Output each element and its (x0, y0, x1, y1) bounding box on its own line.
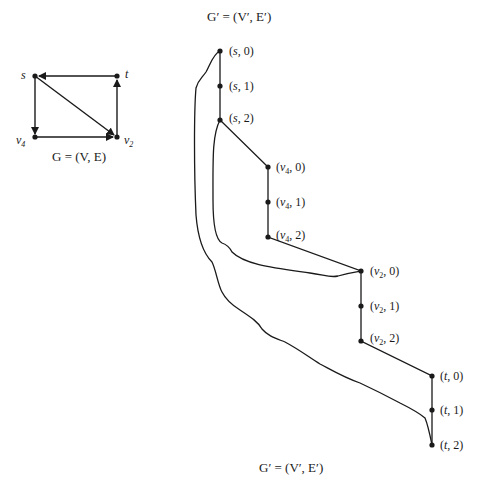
node-s-0 (217, 48, 222, 53)
label-v4-0: (v4, 0) (276, 161, 305, 176)
label-s: s (21, 69, 26, 81)
label-v4: v4 (16, 134, 25, 149)
label-t-2: (t, 2) (440, 439, 463, 451)
label-t-1: (t, 1) (440, 404, 463, 416)
node-v2-2 (358, 338, 363, 343)
expanded-graph-caption-top: G′ = (V′, E′) (207, 10, 271, 23)
node-t (114, 73, 119, 78)
edge-s-v2 (35, 76, 114, 135)
label-v4-2: (v4, 2) (276, 229, 305, 244)
original-graph-caption: G = (V, E) (52, 150, 106, 163)
node-v4 (32, 134, 37, 139)
node-s-2 (217, 117, 222, 122)
node-v2-1 (358, 303, 363, 308)
expanded-graph-nodes (217, 48, 434, 447)
node-v4-1 (265, 199, 270, 204)
label-s-2: (s, 2) (229, 112, 254, 124)
node-v2-0 (358, 268, 363, 273)
node-t-0 (429, 373, 434, 378)
expanded-graph-caption-bottom: G′ = (V′, E′) (259, 461, 323, 474)
label-v4-1: (v4, 1) (276, 196, 305, 211)
node-t-2 (429, 442, 434, 447)
node-t-1 (429, 407, 434, 412)
node-v2 (114, 134, 119, 139)
node-s-1 (217, 83, 222, 88)
node-v4-2 (265, 234, 270, 239)
label-v2-1: (v2, 1) (370, 300, 399, 315)
label-t: t (125, 68, 128, 80)
label-s-0: (s, 0) (229, 45, 254, 57)
label-v2: v2 (124, 134, 133, 149)
label-s-1: (s, 1) (229, 80, 254, 92)
node-v4-0 (265, 164, 270, 169)
graph-canvas (0, 0, 489, 488)
original-graph (35, 76, 117, 137)
label-t-0: (t, 0) (440, 370, 463, 382)
label-v2-0: (v2, 0) (370, 265, 399, 280)
node-s (32, 73, 37, 78)
label-v2-2: (v2, 2) (370, 332, 399, 347)
